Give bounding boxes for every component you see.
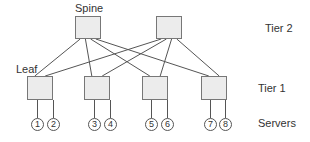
leaf-3-switch xyxy=(142,76,168,100)
tier2-label: Tier 2 xyxy=(265,22,293,34)
spine-leaf-link xyxy=(35,39,80,76)
leaf-2-switch xyxy=(84,76,110,100)
server-1: 1 xyxy=(31,118,44,131)
spine-leaf-link xyxy=(160,39,171,76)
leaf-1-switch xyxy=(27,76,53,100)
server-7: 7 xyxy=(204,118,217,131)
server-4: 4 xyxy=(104,118,117,131)
spine-leaf-link xyxy=(91,39,150,76)
server-5: 5 xyxy=(145,118,158,131)
server-8: 8 xyxy=(219,118,232,131)
servers-label: Servers xyxy=(258,117,296,129)
server-6: 6 xyxy=(161,118,174,131)
spine-2-switch xyxy=(156,16,182,39)
server-3: 3 xyxy=(88,118,101,131)
spine-leaf-diagram: Spine Leaf Tier 2 Tier 1 Servers 1234567… xyxy=(0,0,310,142)
spine-leaf-link xyxy=(177,39,219,76)
leaf-4-switch xyxy=(201,76,227,100)
spine-1-switch xyxy=(75,16,101,39)
spine-leaf-link xyxy=(45,39,161,76)
spine-label: Spine xyxy=(75,2,103,14)
spine-leaf-link xyxy=(85,39,91,76)
server-2: 2 xyxy=(47,118,60,131)
tier1-label: Tier 1 xyxy=(258,82,286,94)
leaf-label: Leaf xyxy=(16,63,37,75)
